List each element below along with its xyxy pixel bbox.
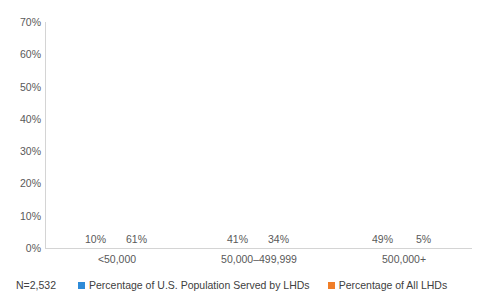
plot-area: 0% 10% 20% 30% 40% 50% 60% 70% 10% 61% <… xyxy=(45,22,472,249)
y-axis-tick-1: 10% xyxy=(20,210,41,222)
y-axis-tick-7: 70% xyxy=(20,16,41,28)
y-axis-tick-2: 20% xyxy=(20,177,41,189)
y-axis-tick-0: 0% xyxy=(26,242,41,254)
bar-value-label: 61% xyxy=(126,233,147,245)
legend-label: Percentage of U.S. Population Served by … xyxy=(89,279,310,291)
chart-legend: Percentage of U.S. Population Served by … xyxy=(78,279,447,291)
bar-value-label: 49% xyxy=(372,233,393,245)
legend-item-population-served[interactable]: Percentage of U.S. Population Served by … xyxy=(78,279,310,291)
bar-group-3: 49% 5% 500,000+ xyxy=(330,22,472,248)
bar-group-1: 10% 61% <50,000 xyxy=(46,22,188,248)
x-axis-category-1: <50,000 xyxy=(98,253,136,265)
chart-footer: N=2,532 Percentage of U.S. Population Se… xyxy=(0,276,482,298)
bar-chart-figure: 0% 10% 20% 30% 40% 50% 60% 70% 10% 61% <… xyxy=(0,0,482,298)
y-axis-tick-4: 40% xyxy=(20,113,41,125)
y-axis-tick-3: 30% xyxy=(20,145,41,157)
legend-swatch-icon xyxy=(328,282,335,289)
sample-size-label: N=2,532 xyxy=(16,279,56,291)
x-axis-category-3: 500,000+ xyxy=(382,253,426,265)
legend-item-all-lhds[interactable]: Percentage of All LHDs xyxy=(328,279,448,291)
y-axis-tick-5: 50% xyxy=(20,81,41,93)
y-axis-tick-6: 60% xyxy=(20,48,41,60)
legend-label: Percentage of All LHDs xyxy=(339,279,448,291)
bar-value-label: 10% xyxy=(85,233,106,245)
bar-group-2: 41% 34% 50,000–499,999 xyxy=(188,22,330,248)
x-axis-category-2: 50,000–499,999 xyxy=(221,253,297,265)
bar-value-label: 34% xyxy=(268,233,289,245)
legend-swatch-icon xyxy=(78,282,85,289)
bar-value-label: 5% xyxy=(416,233,431,245)
bar-value-label: 41% xyxy=(227,233,248,245)
